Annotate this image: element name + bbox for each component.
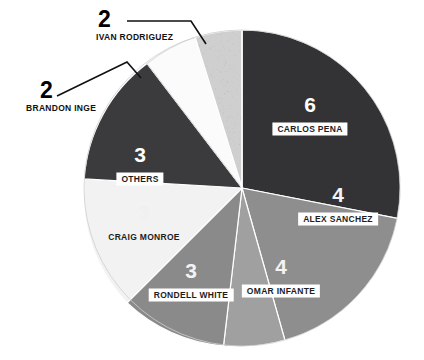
pie-chart-canvas xyxy=(0,0,424,360)
pie-slice-carlos-pena[interactable] xyxy=(242,30,401,218)
pie-slices xyxy=(83,30,400,347)
pie-chart: 6 CARLOS PENA 4 ALEX SANCHEZ 4 OMAR INFA… xyxy=(0,0,424,360)
